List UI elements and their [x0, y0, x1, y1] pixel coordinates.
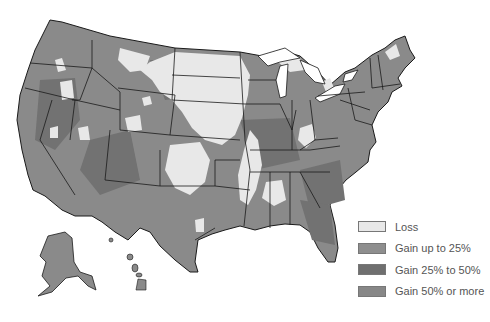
legend-swatch-loss: [358, 221, 386, 232]
legend-swatch-gain-25-to-50: [358, 264, 386, 275]
alaska: [38, 232, 96, 296]
legend-swatch-gain-up-to-25: [358, 243, 386, 254]
legend-label: Gain 25% to 50%: [395, 264, 481, 276]
hawaii: [109, 238, 146, 290]
map-legend: Loss Gain up to 25% Gain 25% to 50% Gain…: [358, 216, 490, 302]
legend-item-gain-up-to-25: Gain up to 25%: [358, 238, 490, 260]
legend-swatch-gain-50-or-more: [358, 286, 386, 297]
legend-item-gain-25-to-50: Gain 25% to 50%: [358, 259, 490, 281]
legend-item-gain-50-or-more: Gain 50% or more: [358, 281, 490, 303]
legend-item-loss: Loss: [358, 216, 490, 238]
legend-label: Gain up to 25%: [395, 242, 471, 254]
legend-label: Gain 50% or more: [395, 285, 484, 297]
legend-label: Loss: [395, 221, 418, 233]
